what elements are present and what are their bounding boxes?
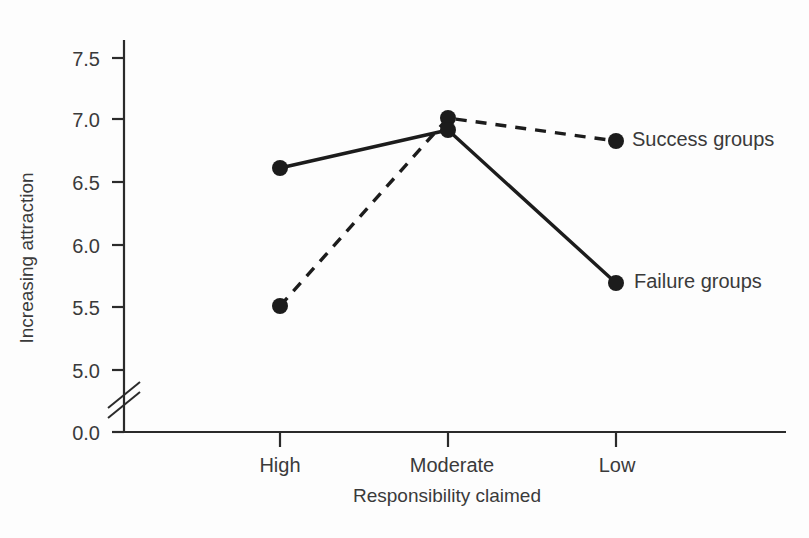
series-success-groups xyxy=(272,110,624,314)
failure-groups-line xyxy=(280,130,616,283)
x-axis-title: Responsibility claimed xyxy=(353,485,541,506)
failure-groups-point-moderate xyxy=(440,122,456,138)
line-chart-canvas: 7.5 7.0 6.5 6.0 5.5 5.0 0.0 High Moderat… xyxy=(0,0,809,538)
success-groups-point-low xyxy=(608,133,624,149)
y-tick-label-6-5: 6.5 xyxy=(72,172,100,194)
success-groups-line xyxy=(280,118,616,306)
x-tick-label-low: Low xyxy=(599,454,636,476)
chart-figure: 7.5 7.0 6.5 6.0 5.5 5.0 0.0 High Moderat… xyxy=(0,0,809,538)
success-groups-point-high xyxy=(272,298,288,314)
y-tick-label-7-5: 7.5 xyxy=(72,48,100,70)
failure-groups-point-high xyxy=(272,160,288,176)
y-axis-title: Increasing attraction xyxy=(16,172,37,343)
y-tick-marks xyxy=(112,58,124,432)
series-failure-groups xyxy=(272,122,624,291)
y-tick-label-0-0: 0.0 xyxy=(72,422,100,444)
x-tick-label-high: High xyxy=(259,454,300,476)
x-tick-label-moderate: Moderate xyxy=(410,454,495,476)
y-tick-label-5-5: 5.5 xyxy=(72,297,100,319)
failure-groups-point-low xyxy=(608,275,624,291)
y-tick-label-5-0: 5.0 xyxy=(72,360,100,382)
legend-label-success-groups: Success groups xyxy=(632,128,774,150)
x-tick-marks xyxy=(280,432,616,447)
legend-label-failure-groups: Failure groups xyxy=(634,270,762,292)
y-tick-label-7-0: 7.0 xyxy=(72,109,100,131)
y-tick-label-6-0: 6.0 xyxy=(72,235,100,257)
